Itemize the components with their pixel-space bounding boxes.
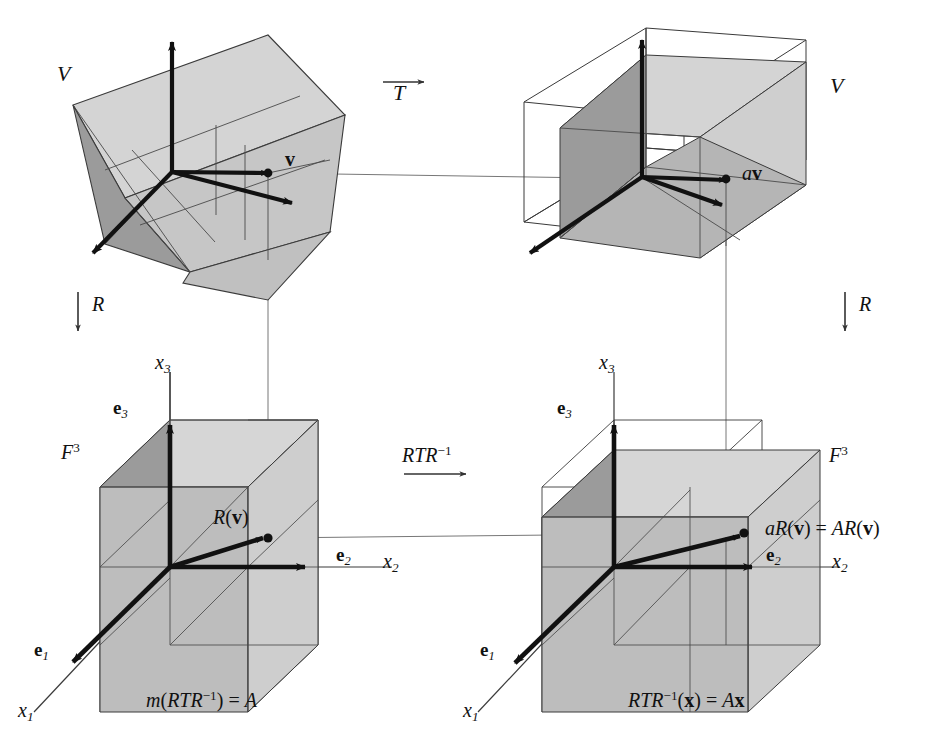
axis-label-x2-right: x2 xyxy=(832,551,847,574)
label-point-Rv: R(v) xyxy=(213,507,249,527)
axis-label-x3-left: x3 xyxy=(155,352,170,375)
caption-left-exp: −1 xyxy=(203,688,217,703)
axis-label-x1-left-sub: 1 xyxy=(27,709,34,724)
label-point-aRv: aR(v) = AR(v) xyxy=(765,518,880,538)
axis-label-x2-left-sub: 2 xyxy=(392,560,399,575)
panel-bottom-left-geometry xyxy=(34,372,392,712)
caption-left-eq: ) = xyxy=(217,689,240,711)
caption-left-inner: RTR xyxy=(167,689,203,711)
vector-right xyxy=(172,172,268,173)
axis-label-x2-right-base: x xyxy=(832,550,841,572)
panel-bottom-right-geometry xyxy=(478,372,840,712)
basis-label-e2-right: e2 xyxy=(766,545,781,567)
axis-label-x3-left-sub: 3 xyxy=(164,361,171,376)
caption-right-vec: x xyxy=(734,689,744,711)
label-point-aRv-open: ( xyxy=(787,517,794,539)
caption-right: RTR−1(x) = Ax xyxy=(628,689,744,710)
label-space-F3-right: F3 xyxy=(829,444,848,465)
axis-label-x1-left-base: x xyxy=(18,699,27,721)
label-point-v: v xyxy=(285,149,295,169)
arrow-label-R-right: R xyxy=(859,294,871,314)
label-space-V-top-right: V xyxy=(830,75,843,97)
label-point-av-scalar: a xyxy=(742,162,752,184)
arrow-label-T: T xyxy=(393,82,405,104)
diagram-geometry xyxy=(0,0,925,748)
panel-top-right-geometry xyxy=(524,28,806,258)
axis-label-x3-right-base: x xyxy=(599,351,608,373)
axis-label-x3-left-base: x xyxy=(155,351,164,373)
caption-right-lhs: RTR xyxy=(628,689,664,711)
point-Rv xyxy=(263,533,272,542)
basis-label-e3-right-sub: 3 xyxy=(565,407,571,421)
label-point-Rv-open: ( xyxy=(225,506,232,528)
label-point-av: av xyxy=(742,163,762,183)
basis-label-e1-right: e1 xyxy=(480,640,495,662)
basis-label-e2-left-sub: 2 xyxy=(344,554,350,568)
label-point-Rv-close: ) xyxy=(242,506,249,528)
f3box-front-face-r xyxy=(542,517,748,712)
point-aRv xyxy=(739,528,748,537)
figure-canvas: V v V av T R R RTR−1 x3 x2 x1 e3 e2 e1 F… xyxy=(0,0,925,748)
label-point-aRv-eq: = xyxy=(816,517,827,539)
label-space-F3-left-exp: 3 xyxy=(73,440,80,455)
label-point-aRv-close2: ) xyxy=(873,517,880,539)
axis-label-x3-right: x3 xyxy=(599,352,614,375)
label-point-Rv-fn: R xyxy=(213,506,225,528)
arrow-label-R-left: R xyxy=(92,294,104,314)
caption-right-exp: −1 xyxy=(664,688,678,703)
caption-left: m(RTR−1) = A xyxy=(146,689,257,710)
axis-label-x1-right-sub: 1 xyxy=(472,709,479,724)
axis-label-x2-left-base: x xyxy=(383,550,392,572)
label-point-aRv-fn: R xyxy=(775,517,787,539)
label-point-aRv-open2: ( xyxy=(856,517,863,539)
point-av xyxy=(722,175,731,184)
axis-label-x3-right-sub: 3 xyxy=(608,361,615,376)
basis-label-e1-right-sub: 1 xyxy=(488,649,494,663)
label-point-Rv-arg: v xyxy=(232,506,242,528)
basis-label-e1-left: e1 xyxy=(34,640,49,662)
label-point-aRv-arg: v xyxy=(794,517,804,539)
basis-label-e2-left: e2 xyxy=(336,545,351,567)
axis-label-x2-left: x2 xyxy=(383,551,398,574)
basis-label-e3-left-sub: 3 xyxy=(121,407,127,421)
label-point-aRv-close: ) xyxy=(804,517,811,539)
panel-top-left-geometry xyxy=(73,35,345,300)
label-space-F3-left-base: F xyxy=(61,441,73,463)
axis-label-x1-left: x1 xyxy=(18,700,33,723)
label-space-F3-right-exp: 3 xyxy=(841,443,848,458)
arrow-label-RTRinv-base: RTR xyxy=(402,444,438,466)
point-v xyxy=(264,169,273,178)
label-point-aRv-arg2: v xyxy=(863,517,873,539)
label-point-av-vector: v xyxy=(752,162,762,184)
arrow-label-RTRinv: RTR−1 xyxy=(402,444,452,465)
label-point-aRv-scalar: a xyxy=(765,517,775,539)
axis-label-x1-right-base: x xyxy=(463,699,472,721)
caption-left-result: A xyxy=(245,689,257,711)
axis-label-x2-right-sub: 2 xyxy=(841,560,848,575)
label-space-V-top-left: V xyxy=(57,63,70,85)
label-point-aRv-matrix: AR xyxy=(832,517,856,539)
basis-label-e3-right: e3 xyxy=(557,398,572,420)
caption-right-matrix: A xyxy=(722,689,734,711)
basis-label-e1-left-sub: 1 xyxy=(42,649,48,663)
caption-right-argvec: x xyxy=(684,689,694,711)
label-space-F3-right-base: F xyxy=(829,444,841,466)
caption-left-fn: m xyxy=(146,689,160,711)
arrow-label-RTRinv-exponent: −1 xyxy=(438,443,452,458)
basis-label-e2-right-sub: 2 xyxy=(774,554,780,568)
label-space-F3-left: F3 xyxy=(61,441,80,462)
caption-right-argclose: ) = xyxy=(694,689,717,711)
axis-label-x1-right: x1 xyxy=(463,700,478,723)
basis-label-e3-left: e3 xyxy=(113,398,128,420)
